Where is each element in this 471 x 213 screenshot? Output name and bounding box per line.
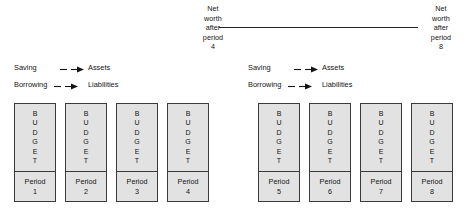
legend-source-label: Borrowing (248, 80, 281, 90)
budget-word-vertical: B U D G E T (168, 104, 208, 171)
budget-letter: E (135, 147, 140, 156)
budget-box-period-3: B U D G E T Period 3 (116, 103, 158, 202)
budget-letter: T (135, 156, 139, 165)
legend-source-label: Saving (248, 63, 271, 73)
budget-letter: U (327, 118, 332, 127)
budget-letter: G (276, 137, 281, 146)
budget-letter: B (277, 109, 282, 118)
legend-target-label: Assets (322, 63, 344, 73)
legend-target-label: Liabilities (88, 80, 118, 90)
budget-letter: G (32, 137, 37, 146)
budget-letter: E (379, 147, 384, 156)
budget-letter: D (32, 128, 37, 137)
period-label-block: Period 8 (412, 172, 452, 201)
budget-word-vertical: B U D G E T (310, 104, 350, 171)
period-number: 2 (84, 187, 88, 197)
period-label-block: Period 6 (310, 172, 350, 201)
budget-letter: B (84, 109, 89, 118)
networth-label-period-8: Net worth after period 8 (414, 4, 468, 52)
budget-letter: T (328, 156, 332, 165)
period-word: Period (371, 177, 392, 187)
period-number: 1 (33, 187, 37, 197)
budget-letter: D (185, 128, 190, 137)
period-word: Period (127, 177, 148, 187)
period-number: 4 (186, 187, 190, 197)
budget-letter: D (378, 128, 383, 137)
budget-box-period-1: B U D G E T Period 1 (14, 103, 56, 202)
budget-letter: G (327, 137, 332, 146)
timeline-connector-line (219, 27, 418, 28)
budget-letter: D (134, 128, 139, 137)
budget-letter: G (83, 137, 88, 146)
period-word: Period (269, 177, 290, 187)
legend-source-label: Borrowing (14, 80, 47, 90)
budget-letter: E (33, 147, 38, 156)
networth-line-2: worth (186, 14, 240, 24)
budget-letter: U (185, 118, 190, 127)
period-number: 7 (379, 187, 383, 197)
period-label-block: Period 3 (117, 172, 157, 201)
budget-letter: E (430, 147, 435, 156)
legend-target-label: Liabilities (322, 80, 352, 90)
networth-line-4: period (186, 33, 240, 43)
budget-letter: T (277, 156, 281, 165)
period-word: Period (25, 177, 46, 187)
legend-target-label: Assets (88, 63, 110, 73)
budget-box-period-7: B U D G E T Period 7 (360, 103, 402, 202)
budget-box-period-8: B U D G E T Period 8 (411, 103, 453, 202)
budget-letter: G (134, 137, 139, 146)
period-label-block: Period 5 (259, 172, 299, 201)
networth-line-5: 4 (186, 42, 240, 52)
budget-letter: T (186, 156, 190, 165)
period-word: Period (178, 177, 199, 187)
period-number: 5 (277, 187, 281, 197)
budget-letter: D (83, 128, 88, 137)
budget-letter: U (378, 118, 383, 127)
networth-line-4: period (414, 33, 468, 43)
period-label-block: Period 7 (361, 172, 401, 201)
budget-word-vertical: B U D G E T (412, 104, 452, 171)
dashed-arrow-icon (294, 66, 320, 73)
budget-letter: T (84, 156, 88, 165)
budget-word-vertical: B U D G E T (259, 104, 299, 171)
period-label-block: Period 1 (15, 172, 55, 201)
period-word: Period (76, 177, 97, 187)
dashed-arrow-icon (60, 66, 86, 73)
budget-box-period-2: B U D G E T Period 2 (65, 103, 107, 202)
budget-letter: T (379, 156, 383, 165)
period-number: 8 (430, 187, 434, 197)
budget-box-period-4: B U D G E T Period 4 (167, 103, 209, 202)
budget-box-period-5: B U D G E T Period 5 (258, 103, 300, 202)
legend-source-label: Saving (14, 63, 37, 73)
networth-line-3: after (414, 23, 468, 33)
period-number: 6 (328, 187, 332, 197)
period-label-block: Period 2 (66, 172, 106, 201)
budget-letter: D (327, 128, 332, 137)
budget-letter: G (429, 137, 434, 146)
budget-word-vertical: B U D G E T (15, 104, 55, 171)
budget-letter: E (328, 147, 333, 156)
budget-letter: E (84, 147, 89, 156)
budget-letter: E (186, 147, 191, 156)
budget-letter: G (378, 137, 383, 146)
period-number: 3 (135, 187, 139, 197)
budget-letter: T (33, 156, 37, 165)
budget-letter: U (32, 118, 37, 127)
budget-letter: D (276, 128, 281, 137)
budget-letter: B (379, 109, 384, 118)
budget-word-vertical: B U D G E T (117, 104, 157, 171)
dashed-arrow-icon (288, 83, 314, 90)
budget-box-period-6: B U D G E T Period 6 (309, 103, 351, 202)
diagram-canvas: Net worth after period 4 Net worth after… (0, 0, 471, 213)
budget-letter: B (33, 109, 38, 118)
networth-line-2: worth (414, 14, 468, 24)
networth-line-1: Net (186, 4, 240, 14)
period-label-block: Period 4 (168, 172, 208, 201)
budget-letter: U (429, 118, 434, 127)
budget-letter: G (185, 137, 190, 146)
budget-word-vertical: B U D G E T (361, 104, 401, 171)
budget-letter: U (276, 118, 281, 127)
budget-letter: B (430, 109, 435, 118)
dashed-arrow-icon (54, 83, 80, 90)
budget-word-vertical: B U D G E T (66, 104, 106, 171)
